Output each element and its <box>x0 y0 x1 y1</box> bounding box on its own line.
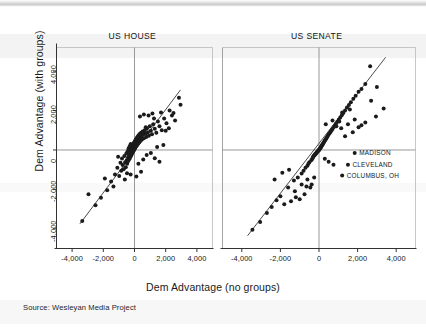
data-point <box>340 111 344 115</box>
data-point <box>374 114 378 118</box>
data-point <box>105 188 109 192</box>
data-point <box>292 179 296 183</box>
data-point <box>349 100 353 104</box>
y-tick-label: 4,000 <box>49 65 58 84</box>
data-point <box>304 184 308 188</box>
data-point <box>157 160 161 164</box>
x-tick-label: 4,000 <box>383 254 409 263</box>
data-point <box>115 166 119 170</box>
data-point <box>144 125 148 129</box>
data-point <box>343 134 347 138</box>
data-point <box>359 123 363 127</box>
data-point <box>363 82 367 86</box>
data-point <box>273 178 277 182</box>
data-point <box>275 198 279 202</box>
data-point <box>153 156 157 160</box>
x-tick-label: -2,000 <box>90 254 116 263</box>
data-point <box>294 195 298 199</box>
x-tick-label: 0 <box>122 254 148 263</box>
data-point <box>310 182 314 186</box>
x-tick-label: -2,000 <box>267 254 293 263</box>
data-point <box>94 203 98 207</box>
data-point <box>270 205 274 209</box>
data-point <box>150 112 154 116</box>
data-point <box>179 103 183 107</box>
data-point <box>172 111 176 115</box>
data-point <box>353 117 357 121</box>
data-point <box>258 220 262 224</box>
data-point <box>86 192 90 196</box>
x-tick-label: 2,000 <box>153 254 179 263</box>
data-point <box>359 87 363 91</box>
data-point <box>148 124 152 128</box>
data-point <box>250 228 254 232</box>
x-tick-label: -4,000 <box>59 254 85 263</box>
data-point <box>173 118 177 122</box>
data-point <box>139 170 143 174</box>
data-point <box>141 157 145 161</box>
data-point <box>312 176 316 180</box>
data-point <box>156 119 160 123</box>
data-point <box>151 122 155 126</box>
y-tick-label: 0 <box>49 159 58 163</box>
data-point <box>136 162 140 166</box>
data-point <box>125 171 129 175</box>
figure-root: Dem Advantage (with groups) Dem Advantag… <box>0 0 426 327</box>
data-point <box>164 121 168 125</box>
data-point <box>300 182 304 186</box>
data-point <box>334 124 338 128</box>
data-point <box>124 165 128 169</box>
x-tick-label: 2,000 <box>345 254 371 263</box>
data-point <box>111 184 115 188</box>
y-tick-label: -4,000 <box>49 220 58 242</box>
data-point <box>154 131 158 135</box>
data-point <box>289 199 293 203</box>
data-point <box>282 202 286 206</box>
data-point <box>123 178 127 182</box>
data-point <box>265 211 269 215</box>
data-point <box>138 114 142 118</box>
data-point <box>305 178 309 182</box>
data-point <box>116 155 120 159</box>
point-annotation-label: MADISON <box>359 149 391 156</box>
data-point <box>357 90 361 94</box>
data-point <box>117 174 121 178</box>
data-point <box>348 108 352 112</box>
data-point <box>331 163 335 167</box>
data-point <box>155 145 159 149</box>
data-point <box>145 153 149 157</box>
data-point <box>134 175 138 179</box>
data-point <box>177 96 181 100</box>
data-point <box>351 130 355 134</box>
data-point <box>149 151 153 155</box>
data-point <box>298 197 302 201</box>
data-point <box>162 116 166 120</box>
data-point <box>286 185 290 189</box>
data-point <box>339 126 343 130</box>
y-tick-label: -2,000 <box>49 181 58 203</box>
data-point <box>152 116 156 120</box>
data-point <box>113 173 117 177</box>
data-point <box>382 107 386 111</box>
data-point <box>280 171 284 175</box>
data-point <box>287 168 291 172</box>
data-point <box>346 122 350 126</box>
data-point <box>324 122 328 126</box>
data-point <box>327 160 331 164</box>
point-annotation-label: COLUMBUS, OH <box>347 172 399 179</box>
data-point <box>331 118 335 122</box>
point-annotation-label: CLEVELAND <box>352 161 392 168</box>
data-point <box>160 128 164 132</box>
data-point <box>296 176 300 180</box>
data-point <box>99 196 103 200</box>
x-tick-label: 0 <box>306 254 332 263</box>
data-point <box>142 113 146 117</box>
data-point <box>375 85 379 89</box>
data-point <box>323 157 327 161</box>
data-point <box>129 173 133 177</box>
data-point <box>164 129 168 133</box>
x-tick-label: 4,000 <box>184 254 210 263</box>
data-point <box>337 119 341 123</box>
data-point <box>368 64 372 68</box>
data-point <box>278 194 282 198</box>
